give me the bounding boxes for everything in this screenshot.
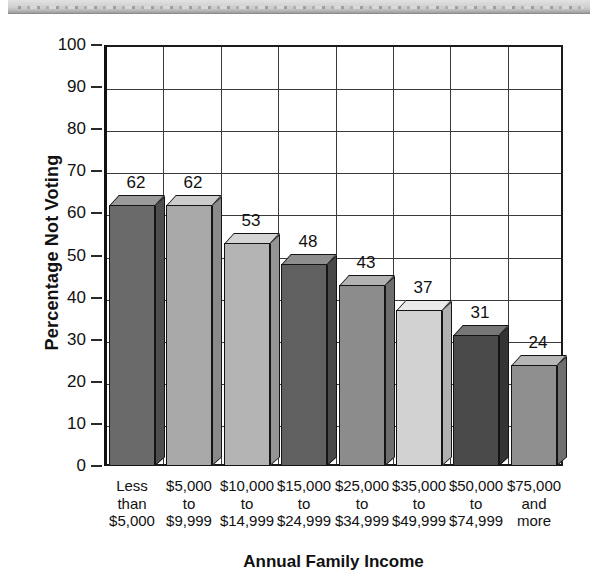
category-label-line: $75,000	[502, 477, 566, 495]
category-label-line: and	[502, 495, 566, 513]
y-axis-tick	[91, 339, 102, 341]
bar-front-face	[453, 335, 499, 466]
bar-front-face	[281, 264, 327, 466]
category-label-line: to	[444, 495, 508, 513]
bar	[166, 205, 222, 466]
category-label-line: Less	[100, 477, 164, 495]
x-axis-category-label: $35,000to$49,999	[387, 477, 451, 530]
category-label-line: $10,000	[215, 477, 279, 495]
y-axis-tick-label: 100	[26, 36, 86, 53]
x-axis-category-label: $25,000to$34,999	[330, 477, 394, 530]
y-axis-tick	[91, 255, 102, 257]
y-axis-tick-label: 10	[26, 415, 86, 432]
y-axis-tick	[91, 86, 102, 88]
category-label-line: $35,000	[387, 477, 451, 495]
bar-value-label: 48	[280, 232, 336, 252]
category-label-line: to	[215, 495, 279, 513]
bar-side-face	[327, 255, 337, 466]
category-label-line: more	[502, 512, 566, 530]
x-axis-category-label: $5,000to$9,999	[157, 477, 221, 530]
bar	[453, 335, 509, 466]
bar-value-label: 62	[165, 173, 221, 193]
y-axis-line	[104, 45, 107, 466]
category-label-line: to	[157, 495, 221, 513]
x-axis-category-label: $50,000to$74,999	[444, 477, 508, 530]
bar-side-face	[557, 356, 567, 466]
bar-value-label: 37	[395, 278, 451, 298]
bar-side-face	[155, 196, 165, 466]
bar-front-face	[109, 205, 155, 466]
bar-value-label: 31	[452, 303, 508, 323]
bar-side-face	[385, 276, 395, 466]
category-label-line: $5,000	[100, 512, 164, 530]
bar-front-face	[511, 365, 557, 466]
category-label-line: $5,000	[157, 477, 221, 495]
chart-page: 0102030405060708090100 6262534843373124 …	[0, 0, 602, 587]
category-label-line: to	[272, 495, 336, 513]
bar-side-face	[270, 234, 280, 466]
category-label-line: $25,000	[330, 477, 394, 495]
category-label-line: $24,999	[272, 512, 336, 530]
x-axis-category-label: Lessthan$5,000	[100, 477, 164, 530]
bar-side-face	[212, 196, 222, 466]
bar	[109, 205, 165, 466]
bar-value-label: 43	[338, 253, 394, 273]
category-label-line: $49,999	[387, 512, 451, 530]
gridline-horizontal	[106, 131, 561, 132]
x-axis-category-label: $75,000andmore	[502, 477, 566, 530]
y-axis-tick	[91, 44, 102, 46]
bar	[511, 365, 567, 466]
bar-side-face	[442, 301, 452, 466]
category-label-line: to	[387, 495, 451, 513]
bar-front-face	[166, 205, 212, 466]
category-label-line: $15,000	[272, 477, 336, 495]
bar	[396, 310, 452, 466]
category-label-line: $9,999	[157, 512, 221, 530]
y-axis-tick	[91, 465, 102, 467]
bar-chart: 0102030405060708090100 6262534843373124 …	[0, 0, 602, 587]
bar	[281, 264, 337, 466]
gridline-horizontal	[106, 89, 561, 90]
category-label-line: $34,999	[330, 512, 394, 530]
category-label-line: $14,999	[215, 512, 279, 530]
y-axis-title: Percentage Not Voting	[42, 103, 63, 403]
x-axis-category-label: $15,000to$24,999	[272, 477, 336, 530]
y-axis-tick	[91, 170, 102, 172]
y-axis-tick	[91, 381, 102, 383]
category-label-line: than	[100, 495, 164, 513]
x-axis-category-label: $10,000to$14,999	[215, 477, 279, 530]
bar-front-face	[396, 310, 442, 466]
bar	[339, 285, 395, 466]
x-axis-title: Annual Family Income	[104, 552, 563, 572]
bar-front-face	[339, 285, 385, 466]
y-axis-tick-label: 90	[26, 78, 86, 95]
y-axis-tick	[91, 128, 102, 130]
bar-value-label: 24	[510, 333, 566, 353]
category-label-line: to	[330, 495, 394, 513]
bar-value-label: 62	[108, 173, 164, 193]
bar-front-face	[224, 243, 270, 466]
bar-value-label: 53	[223, 211, 279, 231]
bar-side-face	[499, 326, 509, 466]
y-axis-tick-label: 0	[26, 457, 86, 474]
y-axis-tick	[91, 423, 102, 425]
y-axis-tick	[91, 212, 102, 214]
bar	[224, 243, 280, 466]
y-axis-tick	[91, 297, 102, 299]
category-label-line: $50,000	[444, 477, 508, 495]
category-label-line: $74,999	[444, 512, 508, 530]
